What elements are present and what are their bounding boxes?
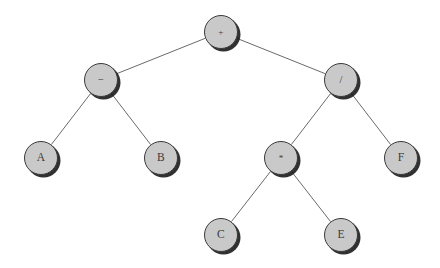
tree-node-layer: +−/AB*FCE (0, 0, 440, 268)
tree-node-n-mul[interactable]: * (264, 141, 298, 175)
tree-node-n-a[interactable]: A (24, 141, 58, 175)
tree-node-label: C (217, 229, 225, 241)
tree-node-label: / (339, 74, 342, 85)
tree-node-label: − (98, 74, 104, 85)
tree-node-n-f[interactable]: F (384, 141, 418, 175)
tree-node-label: B (157, 152, 165, 164)
tree-node-n-e[interactable]: E (324, 218, 358, 252)
tree-node-n-minus[interactable]: − (84, 63, 118, 97)
tree-node-n-c[interactable]: C (204, 218, 238, 252)
tree-node-n-plus[interactable]: + (204, 15, 238, 49)
tree-node-label: * (279, 153, 284, 162)
tree-node-n-div[interactable]: / (324, 63, 358, 97)
tree-node-label: A (37, 152, 46, 164)
tree-node-label: F (398, 152, 405, 164)
expression-tree-figure: +−/AB*FCE (0, 0, 440, 268)
tree-node-n-b[interactable]: B (144, 141, 178, 175)
tree-node-label: E (337, 229, 344, 241)
tree-node-label: + (218, 27, 223, 36)
